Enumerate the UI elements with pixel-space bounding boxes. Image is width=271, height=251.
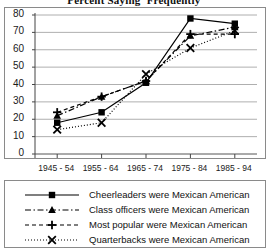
y-axis-label: 70	[2, 26, 24, 36]
x-axis-label: 1985 - 94	[204, 163, 264, 173]
plot-area	[4, 7, 266, 159]
y-axis-label: 20	[2, 113, 24, 123]
legend-key-triangle-icon	[23, 202, 81, 218]
legend-key-x-icon	[23, 232, 81, 248]
legend-item[interactable]: Most popular were Mexican American	[5, 217, 265, 233]
legend-label: Most popular were Mexican American	[89, 218, 247, 232]
legend-item[interactable]: Cheerleaders were Mexican American	[5, 187, 265, 203]
chart-figure: Percent Saying 'Frequently' 807060504030…	[0, 0, 271, 251]
legend-item[interactable]: Class officers were Mexican American	[5, 202, 265, 218]
chart-legend: Cheerleaders were Mexican AmericanClass …	[4, 180, 266, 248]
legend-label: Cheerleaders were Mexican American	[89, 188, 250, 202]
series-2	[53, 23, 238, 119]
plot-canvas	[5, 8, 265, 158]
y-axis-label: 30	[2, 96, 24, 106]
legend-label: Quarterbacks were Mexican American	[89, 233, 250, 247]
y-axis-label: 50	[2, 61, 24, 71]
y-axis-label: 0	[2, 148, 24, 158]
y-axis-label: 80	[2, 9, 24, 19]
chart-title: Percent Saying 'Frequently'	[0, 0, 271, 6]
legend-item[interactable]: Quarterbacks were Mexican American	[5, 232, 265, 248]
y-axis-label: 60	[2, 44, 24, 54]
y-axis-label: 40	[2, 79, 24, 89]
legend-label: Class officers were Mexican American	[89, 203, 249, 217]
y-axis-label: 10	[2, 131, 24, 141]
legend-key-plus-icon	[23, 217, 81, 233]
legend-key-square-icon	[23, 187, 81, 203]
